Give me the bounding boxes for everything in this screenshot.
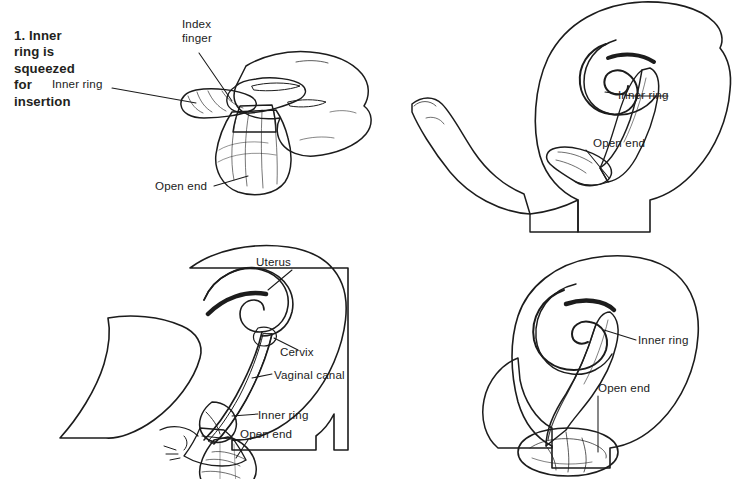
condom-inserted-illustration (547, 68, 659, 186)
panel-2-callouts: Uterus Cervix Vaginal canal Inner ring O… (202, 255, 345, 458)
inner-ring-leader (112, 88, 196, 103)
panel-1-artwork: Index finger Inner ring Open end (0, 0, 370, 240)
pelvis-silhouette (483, 256, 699, 468)
condom-sheath-illustration (184, 402, 256, 479)
panel-2-artwork: Uterus Cervix Vaginal canal Inner ring O… (0, 240, 370, 479)
hand-illustration (227, 52, 371, 157)
uterus-illustration (204, 268, 293, 336)
label-inner-ring: Inner ring (258, 408, 308, 421)
panel-4-artwork: Inner ring Open end (370, 240, 738, 479)
label-inner-ring: Inner ring (638, 333, 688, 346)
panel-1-callouts: Index finger Inner ring Open end (52, 17, 248, 192)
panel-step-3: 3. Inner ring is pushed up as far as it … (370, 0, 738, 240)
panel-4-callouts: Inner ring Open end (598, 330, 688, 452)
open-end-leader (214, 176, 248, 186)
inner-ring-leader (232, 414, 258, 416)
label-open-end: Open end (240, 427, 292, 440)
label-open-end: Open end (155, 179, 207, 192)
uterus-illustration (533, 284, 614, 374)
label-index-finger: Index finger (182, 17, 215, 44)
label-inner-ring: Inner ring (52, 77, 102, 90)
label-inner-ring: Inner ring (618, 88, 668, 101)
panel-step-1: 1. Inner ring is squeezed for insertion (0, 0, 370, 240)
index-finger-leader (199, 53, 232, 101)
label-open-end: Open end (593, 136, 645, 149)
index-finger-illustration (412, 98, 530, 214)
label-uterus: Uterus (256, 255, 291, 268)
panel-step-2: 2. Sheath is inserted, similiar to the i… (0, 240, 370, 479)
inner-ring-leader (604, 330, 636, 340)
illustration-figure: 1. Inner ring is squeezed for insertion (0, 0, 738, 479)
uterus-illustration (580, 40, 656, 115)
label-open-end: Open end (598, 381, 650, 394)
label-cervix: Cervix (280, 345, 314, 358)
label-vaginal-canal: Vaginal canal (274, 368, 345, 381)
panel-3-artwork: Inner ring Open end (370, 0, 738, 240)
vaginal-canal-leader (252, 374, 272, 378)
panel-step-4: 4. Condom in place (370, 240, 738, 479)
panel-3-callouts: Inner ring Open end (586, 88, 668, 178)
